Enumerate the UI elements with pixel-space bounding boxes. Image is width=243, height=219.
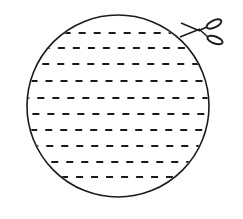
circle-cut-diagram [0, 0, 243, 219]
scissors-icon [180, 17, 224, 46]
circle-outline [27, 15, 209, 197]
figure-canvas [0, 0, 243, 219]
dashed-lines [27, 33, 208, 177]
